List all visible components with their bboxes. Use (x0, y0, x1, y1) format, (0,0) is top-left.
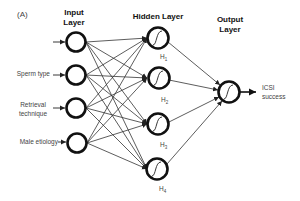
hidden-node-1 (148, 28, 169, 49)
input-arrows (53, 42, 66, 142)
hidden-node-3 (148, 114, 169, 135)
input-label-retrieval-1: Retrieval (20, 101, 46, 108)
hidden-node-4 (147, 159, 168, 180)
input-node-1 (67, 33, 86, 52)
input-hidden-connections (86, 38, 147, 169)
hidden-layer-title: Hidden Layer (133, 12, 184, 21)
hidden-label-2: H2 (161, 96, 169, 105)
output-label-1: ICSI (262, 84, 275, 91)
input-layer-title-2: Layer (63, 18, 84, 27)
output-node (219, 82, 240, 103)
neural-network-diagram: (A) Input Layer Hidden Layer Output Laye… (0, 0, 300, 201)
hidden-node-2 (149, 68, 170, 89)
panel-label: (A) (17, 10, 28, 19)
hidden-label-4: H4 (159, 185, 167, 194)
input-node-2 (67, 66, 86, 85)
input-label-retrieval-2: technique (19, 110, 48, 118)
output-layer-title-2: Layer (219, 25, 240, 34)
output-label-2: success (262, 93, 286, 100)
output-layer-title-1: Output (217, 15, 244, 24)
input-layer-title-1: Input (64, 8, 84, 17)
hidden-label-1: H1 (160, 53, 168, 62)
hidden-label-3: H3 (160, 141, 168, 150)
input-node-4 (68, 134, 87, 153)
hidden-output-connections (167, 42, 222, 164)
input-label-male-etiology: Male etiology (20, 138, 59, 146)
input-label-sperm-type: Sperm type (17, 70, 51, 78)
input-node-3 (67, 99, 86, 118)
